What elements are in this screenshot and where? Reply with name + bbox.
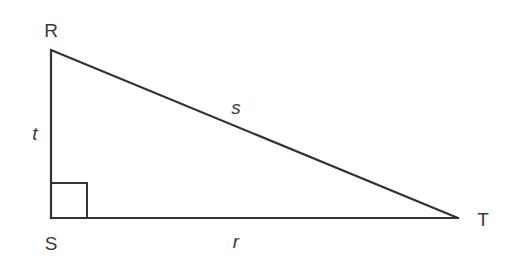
vertex-label-s: S: [45, 233, 58, 254]
side-label-t: t: [32, 123, 38, 144]
right-triangle-diagram: R S T t s r: [0, 0, 515, 269]
triangle: [51, 50, 458, 218]
right-angle-marker: [51, 183, 87, 218]
vertex-label-r: R: [44, 20, 58, 41]
side-label-r: r: [233, 231, 240, 252]
side-s: [51, 50, 458, 218]
side-label-s: s: [231, 97, 241, 118]
vertex-label-t: T: [477, 209, 489, 230]
